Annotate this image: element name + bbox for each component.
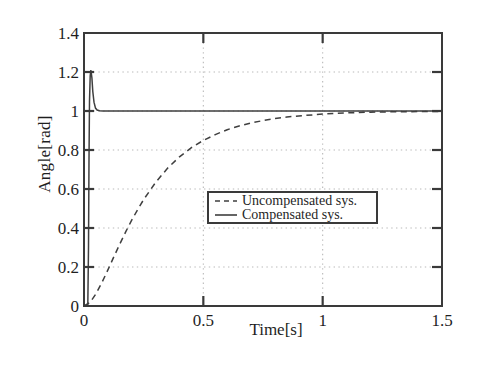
legend: Uncompensated sys. Compensated sys.: [207, 191, 378, 224]
y-tick-label: 0.4: [35, 220, 79, 237]
x-tick-label: 1.5: [417, 312, 467, 329]
y-tick-label: 1.4: [35, 25, 79, 42]
solid-line-sample-icon: [214, 210, 238, 220]
dashed-line-sample-icon: [214, 196, 238, 206]
x-axis-label: Time[s]: [249, 320, 302, 340]
x-tick-label: 1: [298, 312, 348, 329]
legend-label-compensated: Compensated sys.: [242, 208, 343, 222]
legend-entry-uncompensated: Uncompensated sys.: [214, 194, 374, 208]
x-tick-label: 0: [59, 312, 109, 329]
y-tick-label: 0.2: [35, 259, 79, 276]
step-response-figure: Angle[rad] Time[s] 00.20.40.60.811.21.4 …: [0, 0, 481, 368]
y-tick-label: 1: [35, 103, 79, 120]
y-tick-label: 0.6: [35, 181, 79, 198]
legend-label-uncompensated: Uncompensated sys.: [242, 194, 357, 208]
legend-entry-compensated: Compensated sys.: [214, 208, 374, 222]
y-tick-label: 1.2: [35, 64, 79, 81]
x-tick-label: 0.5: [178, 312, 228, 329]
y-tick-label: 0.8: [35, 142, 79, 159]
